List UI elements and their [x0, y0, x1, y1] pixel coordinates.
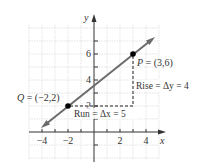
y-tick-label: 6	[86, 48, 91, 59]
x-tick-label: −4	[37, 135, 48, 146]
coordinate-plane: −4 −2 2 4 x 2 4 6 y P = (3,6) Q = (−2,2)…	[0, 0, 208, 168]
point-q-coords: = (−2,2)	[24, 92, 59, 104]
point-p-label: P = (3,6)	[136, 57, 173, 69]
x-tick-label: 4	[144, 135, 149, 146]
x-axis-arrow-icon	[158, 130, 166, 135]
y-axis-arrow-icon	[92, 14, 97, 22]
x-tick-label: −2	[63, 135, 74, 146]
y-tick-label: 4	[86, 74, 91, 85]
run-label: Run = Δx = 5	[74, 109, 126, 119]
point-p-coords: = (3,6)	[143, 57, 173, 69]
point-p	[130, 51, 136, 57]
x-axis-label: x	[159, 135, 165, 146]
point-q-label: Q = (−2,2)	[17, 92, 60, 104]
y-axis-label: y	[83, 12, 89, 23]
x-axis	[29, 129, 166, 135]
point-q	[65, 103, 71, 109]
x-tick-label: 2	[118, 135, 123, 146]
point-p-name: P	[136, 57, 143, 68]
rise-label: Rise = Δy = 4	[136, 81, 189, 91]
